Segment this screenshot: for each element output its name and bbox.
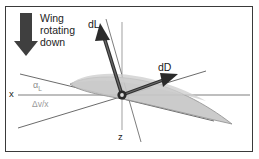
angle-of-attack-subscript: L bbox=[38, 85, 42, 92]
drag-vector-label: dD bbox=[158, 62, 171, 74]
wing-rotation-arrow bbox=[14, 13, 38, 56]
wing-rotation-label-line3: down bbox=[40, 37, 75, 49]
wing-rotation-label-line1: Wing bbox=[40, 13, 75, 25]
angle-of-attack-label: αL bbox=[33, 80, 42, 92]
lift-vector-label: dL bbox=[88, 19, 100, 31]
wing-rotation-label: Wing rotating down bbox=[40, 13, 75, 48]
velocity-ratio-label: Δv/x bbox=[32, 100, 49, 110]
z-axis-label: z bbox=[118, 132, 123, 143]
x-axis-label: x bbox=[9, 89, 14, 100]
origin-hub-center bbox=[120, 93, 124, 97]
figure-root: Wing rotating down dL dD x z αL Δv/x bbox=[0, 0, 259, 159]
wing-rotation-label-line2: rotating bbox=[40, 25, 75, 37]
